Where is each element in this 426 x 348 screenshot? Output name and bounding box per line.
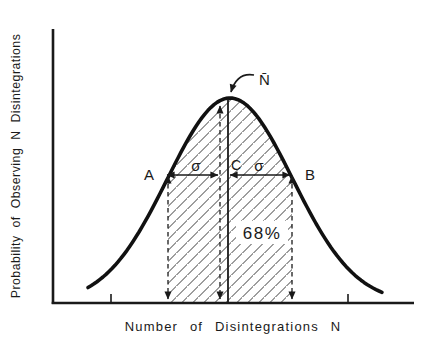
mean-label: N̄ (259, 71, 270, 88)
point-b-label: B (305, 166, 315, 183)
gaussian-distribution-figure: 68% N̄ A B C σ σ Number of Disintegratio… (0, 0, 426, 348)
area-percentage-label: 68% (243, 224, 282, 243)
x-axis-label: Number of Disintegrations N (125, 319, 342, 334)
point-a-label: A (144, 166, 154, 183)
sigma-right-label: σ (254, 157, 264, 174)
y-axis-label: Probability of Observing N Disintegratio… (9, 34, 23, 299)
point-c-label: C (231, 157, 241, 173)
plot-canvas: 68% N̄ A B C σ σ Number of Disintegratio… (0, 0, 426, 348)
sigma-left-label: σ (191, 157, 201, 174)
